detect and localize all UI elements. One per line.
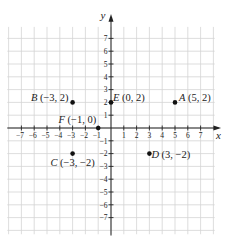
y-tick-label: −2 xyxy=(100,149,108,158)
x-axis-label: x xyxy=(215,129,221,141)
point-label-e: E (0, 2) xyxy=(112,92,145,104)
point-c xyxy=(70,151,75,156)
y-axis-label: y xyxy=(100,9,106,21)
point-label-b: B (−3, 2) xyxy=(31,92,69,104)
y-axis-arrow-icon xyxy=(109,14,114,22)
y-tick-label: 6 xyxy=(104,47,108,56)
x-tick-label: 2 xyxy=(135,131,139,140)
y-tick-label: −4 xyxy=(100,175,108,184)
coordinate-plane: xy −7−6−5−4−3−2−112345677654321−1−2−3−4−… xyxy=(0,0,229,239)
y-tick-label: 4 xyxy=(104,73,108,82)
y-tick-label: 2 xyxy=(104,98,108,107)
y-tick-label: 1 xyxy=(104,111,108,120)
point-b xyxy=(70,100,75,105)
axes: xy xyxy=(7,9,221,235)
x-tick-label: 1 xyxy=(122,131,126,140)
point-label-d: D (3, −2) xyxy=(150,149,190,161)
point-label-a: A (5, 2) xyxy=(178,92,211,104)
x-tick-label: 3 xyxy=(148,131,152,140)
y-tick-label: −3 xyxy=(100,162,108,171)
x-tick-label: 5 xyxy=(173,131,177,140)
point-a xyxy=(173,100,178,105)
x-tick-label: −4 xyxy=(54,131,62,140)
point-label-c: C (−3, −2) xyxy=(50,157,95,169)
point-label-f: F (−1, 0) xyxy=(57,114,96,126)
x-tick-label: 4 xyxy=(160,131,164,140)
y-tick-label: −6 xyxy=(100,201,108,210)
x-tick-label: −3 xyxy=(67,131,75,140)
y-tick-label: −1 xyxy=(100,137,108,146)
x-tick-label: −5 xyxy=(42,131,50,140)
y-tick-label: −5 xyxy=(100,188,108,197)
x-tick-label: 7 xyxy=(199,131,203,140)
y-tick-label: 7 xyxy=(104,34,108,43)
y-tick-label: 3 xyxy=(104,85,108,94)
y-tick-label: 5 xyxy=(104,60,108,69)
y-tick-label: −7 xyxy=(100,213,108,222)
x-tick-label: −7 xyxy=(16,131,24,140)
x-tick-label: 6 xyxy=(186,131,190,140)
x-tick-label: −6 xyxy=(29,131,37,140)
point-f xyxy=(96,126,101,131)
x-tick-label: −2 xyxy=(80,131,88,140)
